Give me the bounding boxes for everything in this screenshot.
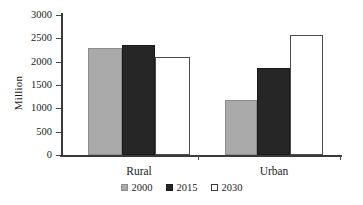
x-tick-separator bbox=[198, 155, 199, 160]
legend-label-2000: 2000 bbox=[132, 182, 153, 193]
y-tick-label-0: 0 bbox=[47, 147, 52, 163]
bar-urban-2015 bbox=[257, 68, 290, 155]
bar-rural-2015 bbox=[122, 45, 155, 155]
y-tick-label-3000: 3000 bbox=[31, 7, 52, 23]
legend-item-2000: 2000 bbox=[121, 182, 153, 193]
legend-swatch-2000 bbox=[121, 184, 128, 191]
bar-urban-2000 bbox=[225, 100, 257, 155]
y-tick-0: 0 bbox=[56, 155, 61, 156]
x-axis-label-urban: Urban bbox=[260, 165, 289, 177]
y-tick-label-1000: 1000 bbox=[31, 100, 52, 116]
x-axis-label-rural: Rural bbox=[126, 165, 152, 177]
y-axis-line bbox=[61, 13, 63, 156]
y-tick-2000: 2000 bbox=[56, 62, 61, 63]
bar-chart-figure: Million 3000 2500 2000 1500 1000 500 0 bbox=[0, 0, 363, 205]
bar-rural-2030 bbox=[155, 57, 190, 155]
x-tick-end bbox=[340, 155, 341, 160]
y-tick-2500: 2500 bbox=[56, 38, 61, 39]
y-axis-title: Million bbox=[8, 58, 28, 128]
x-axis-line bbox=[60, 155, 342, 157]
y-tick-1000: 1000 bbox=[56, 108, 61, 109]
y-tick-1500: 1500 bbox=[56, 85, 61, 86]
legend-label-2015: 2015 bbox=[177, 182, 198, 193]
chart-legend: 2000 2015 2030 bbox=[0, 182, 363, 193]
bar-urban-2030 bbox=[290, 35, 323, 155]
legend-swatch-2015 bbox=[166, 184, 173, 191]
legend-swatch-2030 bbox=[211, 184, 218, 191]
legend-item-2030: 2030 bbox=[211, 182, 243, 193]
y-tick-label-2000: 2000 bbox=[31, 54, 52, 70]
bar-rural-2000 bbox=[88, 48, 122, 155]
plot-area: 3000 2500 2000 1500 1000 500 0 bbox=[61, 15, 341, 155]
y-tick-label-500: 500 bbox=[36, 124, 52, 140]
legend-item-2015: 2015 bbox=[166, 182, 198, 193]
y-tick-500: 500 bbox=[56, 132, 61, 133]
y-tick-label-2500: 2500 bbox=[31, 30, 52, 46]
y-tick-3000: 3000 bbox=[56, 15, 61, 16]
y-tick-label-1500: 1500 bbox=[31, 77, 52, 93]
legend-label-2030: 2030 bbox=[222, 182, 243, 193]
